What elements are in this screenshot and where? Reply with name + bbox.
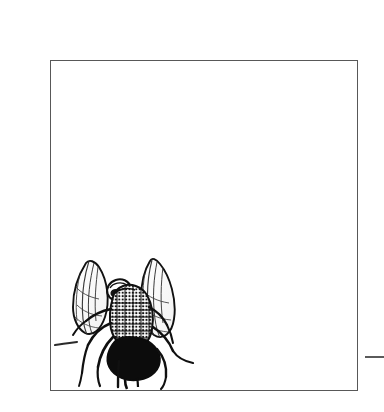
fly-illustration (53, 257, 203, 390)
figure-frame (50, 60, 358, 391)
right-margin-tick (365, 356, 384, 358)
fly-abdomen (107, 337, 160, 389)
fly-stray-stroke (55, 342, 77, 345)
page-canvas (0, 0, 384, 412)
fly-drawing-svg (53, 257, 203, 390)
